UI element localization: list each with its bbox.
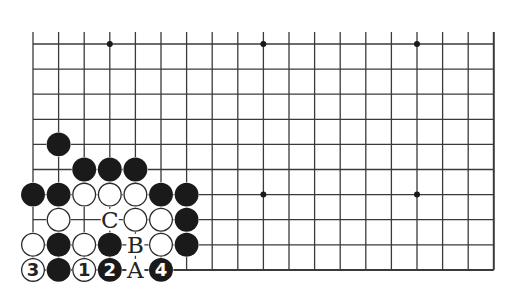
black-stone xyxy=(98,233,122,257)
go-board: 3124 CBA xyxy=(0,0,520,305)
white-stone-1: 1 xyxy=(73,259,96,282)
star-point-icon xyxy=(260,41,266,47)
black-stone xyxy=(123,158,147,182)
white-stone xyxy=(124,208,147,231)
black-stone xyxy=(98,158,122,182)
white-stone xyxy=(124,183,147,206)
white-stone xyxy=(98,183,121,206)
point-label-c: C xyxy=(101,207,119,233)
star-point-icon xyxy=(260,192,266,198)
move-number: 4 xyxy=(155,259,168,280)
white-stone xyxy=(73,233,96,256)
black-stone xyxy=(175,183,199,207)
move-number: 2 xyxy=(104,259,117,280)
move-number: 1 xyxy=(78,259,91,280)
black-stone-2: 2 xyxy=(98,258,122,282)
black-stone xyxy=(72,158,96,182)
black-stone xyxy=(149,183,173,207)
black-stone xyxy=(21,183,45,207)
star-point-icon xyxy=(414,192,420,198)
white-stone xyxy=(22,233,45,256)
white-stone xyxy=(73,183,96,206)
white-stone xyxy=(150,233,173,256)
move-number: 3 xyxy=(27,259,40,280)
white-stone xyxy=(47,208,70,231)
black-stone xyxy=(47,233,71,257)
black-stone xyxy=(175,233,199,257)
grid-lines xyxy=(33,32,494,270)
black-stone xyxy=(47,183,71,207)
white-stone xyxy=(150,208,173,231)
star-point-icon xyxy=(414,41,420,47)
black-stone xyxy=(47,258,71,282)
white-stone-3: 3 xyxy=(22,259,45,282)
point-label-b: B xyxy=(127,232,144,258)
black-stone xyxy=(47,132,71,156)
star-point-icon xyxy=(107,41,113,47)
black-stone xyxy=(175,208,199,232)
point-label-a: A xyxy=(126,257,144,283)
black-stone-4: 4 xyxy=(149,258,173,282)
